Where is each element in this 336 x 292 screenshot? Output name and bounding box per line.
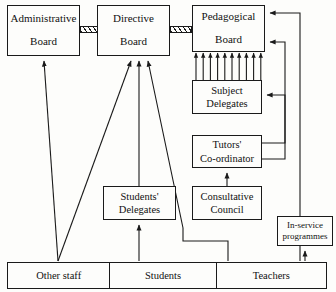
consultative-council-line2: Council <box>210 204 243 215</box>
administrative-board-line1: Administrative <box>11 13 77 25</box>
edge-tutors-coordinator-to-subject-delegates <box>262 95 285 143</box>
tutors-coordinator-line2: Co-ordinator <box>200 153 254 164</box>
tutors-coordinator-line1: Tutors' <box>213 139 242 150</box>
node-directive-board[interactable]: Directive Board <box>97 5 170 56</box>
node-in-service-programmes[interactable]: In-service programmes <box>277 216 333 246</box>
students-delegates-line2: Delegates <box>119 204 160 215</box>
edge-tutors-coordinator-to-pedagogical-board <box>262 42 285 159</box>
constituency-bar: Other staff Students Teachers <box>7 262 327 289</box>
in-service-programmes-line1: In-service <box>287 221 323 230</box>
students-delegates-line1: Students' <box>120 191 158 202</box>
edge-other-staff-to-administrative-board <box>44 61 58 261</box>
directive-board-line1: Directive <box>113 13 154 25</box>
base-cell-students-label: Students <box>145 270 181 281</box>
directive-pedagogical-hatched-link <box>170 26 192 33</box>
pedagogical-board-line2: Board <box>215 34 242 46</box>
in-service-programmes-line2: programmes <box>283 232 328 241</box>
pedagogical-board-line1: Pedagogical <box>202 11 256 23</box>
base-cell-other-staff[interactable]: Other staff <box>8 263 110 288</box>
node-subject-delegates[interactable]: Subject Delegates <box>192 80 262 114</box>
directive-board-line2: Board <box>120 36 147 48</box>
comb-arrows-subject-delegates-to-pedagogical-board <box>196 53 261 80</box>
consultative-council-line1: Consultative <box>200 191 253 202</box>
edge-other-staff-to-directive-board <box>58 61 131 261</box>
administrative-board-line2: Board <box>30 36 57 48</box>
subject-delegates-line1: Subject <box>211 85 243 96</box>
admin-directive-hatched-link <box>80 26 98 33</box>
node-consultative-council[interactable]: Consultative Council <box>192 186 262 220</box>
node-tutors-coordinator[interactable]: Tutors' Co-ordinator <box>192 135 262 168</box>
base-cell-students[interactable]: Students <box>110 263 216 288</box>
node-administrative-board[interactable]: Administrative Board <box>7 5 80 56</box>
node-students-delegates[interactable]: Students' Delegates <box>103 186 176 220</box>
organisational-diagram: Administrative Board Directive Board Ped… <box>0 0 336 292</box>
subject-delegates-line2: Delegates <box>206 98 247 109</box>
base-cell-teachers-label: Teachers <box>253 270 290 281</box>
node-pedagogical-board[interactable]: Pedagogical Board <box>192 5 265 52</box>
base-cell-other-staff-label: Other staff <box>36 270 81 281</box>
base-cell-teachers[interactable]: Teachers <box>217 263 326 288</box>
